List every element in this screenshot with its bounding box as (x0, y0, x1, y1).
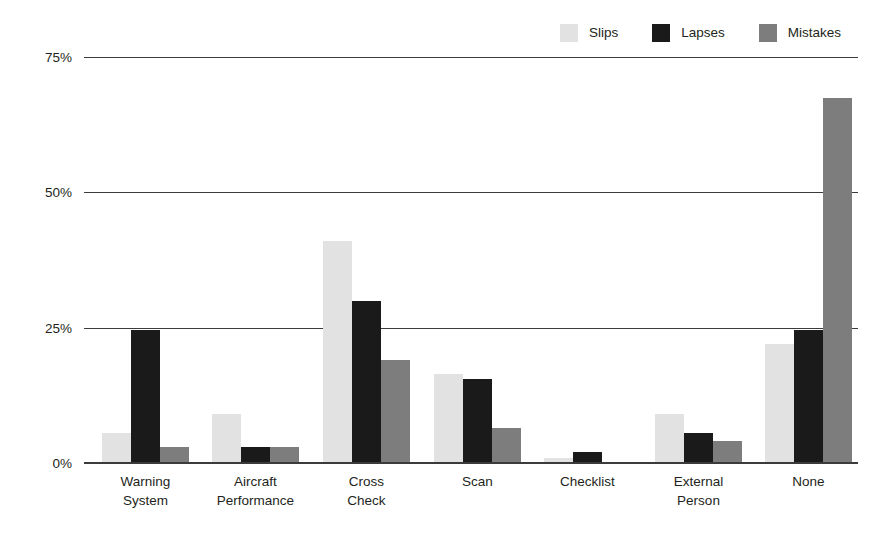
bar-mistakes[interactable] (160, 447, 189, 463)
bar-lapses[interactable] (573, 452, 602, 463)
bar-group (102, 57, 189, 463)
bar-mistakes[interactable] (713, 441, 742, 463)
bar-mistakes[interactable] (270, 447, 299, 463)
legend-label: Lapses (681, 26, 725, 40)
legend-item-slips[interactable]: Slips (560, 24, 618, 42)
bar-slips[interactable] (102, 433, 131, 463)
y-axis-tick-label: 50% (45, 185, 72, 200)
bar-slips[interactable] (212, 414, 241, 463)
bar-group (212, 57, 299, 463)
bar-group (323, 57, 410, 463)
bar-slips[interactable] (323, 241, 352, 463)
x-axis-label: None (739, 472, 879, 491)
y-axis-tick-label: 75% (45, 50, 72, 65)
y-axis-tick-label: 0% (52, 456, 72, 471)
legend-item-mistakes[interactable]: Mistakes (759, 24, 841, 42)
bar-mistakes[interactable] (492, 428, 521, 463)
x-axis-line (84, 462, 858, 464)
bar-group (655, 57, 742, 463)
x-axis-labels: Warning SystemAircraft PerformanceCross … (84, 472, 858, 532)
bar-group (765, 57, 852, 463)
legend-swatch-icon (560, 24, 578, 42)
legend-swatch-icon (652, 24, 670, 42)
legend-label: Mistakes (788, 26, 841, 40)
chart-legend: SlipsLapsesMistakes (560, 22, 841, 44)
bar-group (544, 57, 631, 463)
bar-lapses[interactable] (463, 379, 492, 463)
bar-series-container (84, 57, 858, 463)
plot-area: 75%50%25%0% (84, 57, 858, 463)
bar-chart: SlipsLapsesMistakes 75%50%25%0% Warning … (0, 0, 891, 545)
legend-label: Slips (589, 26, 618, 40)
bar-lapses[interactable] (131, 330, 160, 463)
bar-slips[interactable] (655, 414, 684, 463)
bar-mistakes[interactable] (381, 360, 410, 463)
legend-swatch-icon (759, 24, 777, 42)
bar-lapses[interactable] (241, 447, 270, 463)
bar-group (434, 57, 521, 463)
legend-item-lapses[interactable]: Lapses (652, 24, 725, 42)
bar-lapses[interactable] (352, 301, 381, 463)
bar-mistakes[interactable] (823, 98, 852, 463)
bar-slips[interactable] (434, 374, 463, 463)
bar-slips[interactable] (765, 344, 794, 463)
y-axis-tick-label: 25% (45, 320, 72, 335)
bar-lapses[interactable] (794, 330, 823, 463)
bar-lapses[interactable] (684, 433, 713, 463)
